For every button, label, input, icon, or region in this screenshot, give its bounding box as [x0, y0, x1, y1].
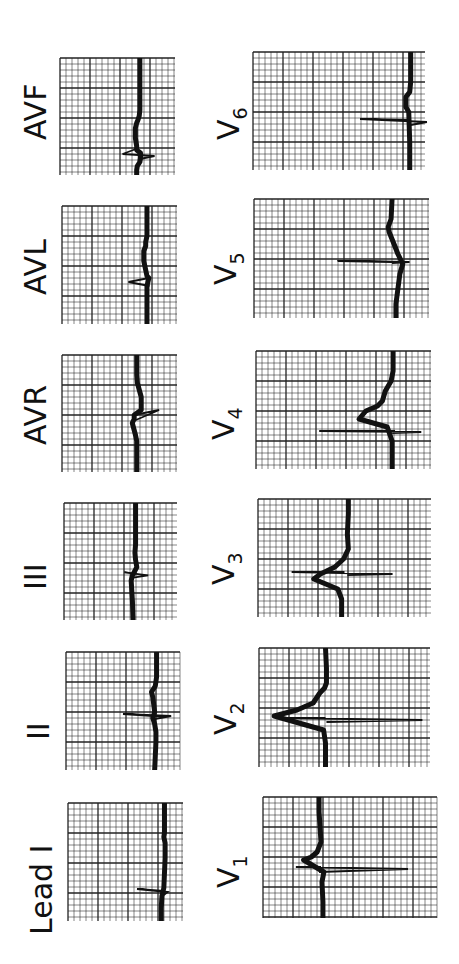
lead-panel-v6: [253, 52, 427, 170]
lead-label-v3: V3: [206, 552, 246, 585]
lead-label-v2: V2: [208, 702, 248, 735]
ecg-figure: AVFAVLAVRIIIIILead IV6V5V4V3V2V1: [0, 0, 459, 964]
grid-paper: [263, 797, 437, 918]
lead-label-v5: V5: [208, 252, 248, 285]
grid-paper: [60, 58, 175, 175]
ecg-waveform: [161, 803, 165, 921]
lead-panel-avf: [60, 58, 175, 175]
lead-panel-v3: [258, 499, 431, 617]
lead-label-avf: AVF: [18, 84, 53, 140]
lead-panel-avl: [62, 206, 177, 324]
lead-panel-avr: [62, 355, 177, 472]
lead-label-v1: V1: [211, 855, 251, 888]
ecg-waveform: [144, 206, 149, 324]
lead-label-avr: AVR: [18, 385, 53, 445]
lead-panel-v2: [259, 648, 430, 767]
lead-panel-v4: [256, 351, 431, 469]
grid-paper: [62, 206, 177, 324]
lead-label-iii: III: [18, 563, 53, 590]
lead-panel-ii: [66, 652, 180, 770]
grid-paper: [62, 355, 177, 472]
grid-paper: [256, 351, 431, 469]
lead-label-ii: II: [21, 722, 56, 740]
lead-label-i: Lead I: [24, 845, 59, 935]
ecg-waveform: [152, 652, 157, 770]
grid-paper: [64, 503, 177, 620]
lead-label-v4: V4: [206, 407, 246, 440]
ecg-tracing-canvas: AVFAVLAVRIIIIILead IV6V5V4V3V2V1: [0, 0, 459, 964]
lead-panel-v1: [263, 797, 437, 918]
qrs-complex: [296, 867, 408, 872]
lead-panel-v5: [254, 199, 429, 318]
ecg-waveform: [406, 52, 411, 170]
lead-panel-i: [68, 803, 183, 921]
grid-paper: [66, 652, 180, 770]
lead-panel-iii: [64, 503, 177, 620]
ecg-waveform: [314, 499, 349, 617]
grid-paper: [253, 52, 425, 170]
lead-label-v6: V6: [211, 107, 251, 140]
grid-paper: [259, 648, 430, 767]
lead-label-avl: AVL: [18, 239, 53, 295]
